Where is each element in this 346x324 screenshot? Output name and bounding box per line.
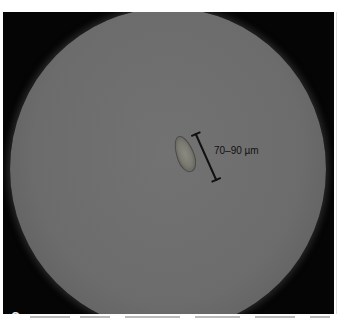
microscope-field bbox=[10, 12, 326, 314]
panel-label: C bbox=[11, 310, 20, 314]
scale-bar-label: 70–90 µm bbox=[214, 145, 259, 156]
cropped-caption-text bbox=[0, 316, 346, 324]
page-rule bbox=[336, 12, 337, 314]
micrograph-frame: 70–90 µm C bbox=[3, 12, 334, 314]
